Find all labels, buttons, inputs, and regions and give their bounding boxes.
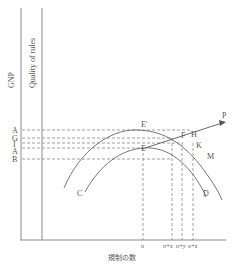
economics-diagram: GNP Quality of rules A G I A B E' E F H …	[0, 0, 237, 265]
inner-curve	[85, 148, 206, 197]
point-k: K	[196, 141, 202, 150]
point-e: E	[141, 144, 146, 153]
x-tick-n-plus-x: n+x	[163, 243, 173, 249]
point-h: H	[191, 130, 197, 139]
x-tick-n-plus-z: n+z	[188, 243, 198, 249]
y-label-b: B	[12, 155, 17, 164]
x-tick-n: n	[141, 243, 144, 249]
point-e-prime: E'	[141, 120, 148, 129]
point-p: P	[222, 111, 227, 120]
x-axis-label: 規制の数	[108, 253, 136, 262]
arrow-head-icon	[219, 120, 226, 126]
point-d: D	[203, 189, 209, 198]
x-tick-n-plus-y: n+y	[176, 243, 186, 249]
gnp-axis-label: GNP	[7, 71, 16, 88]
point-c: C	[77, 189, 82, 198]
point-m: M	[207, 152, 214, 161]
quality-axis-label: Quality of rules	[28, 38, 37, 88]
point-f: F	[181, 131, 186, 140]
